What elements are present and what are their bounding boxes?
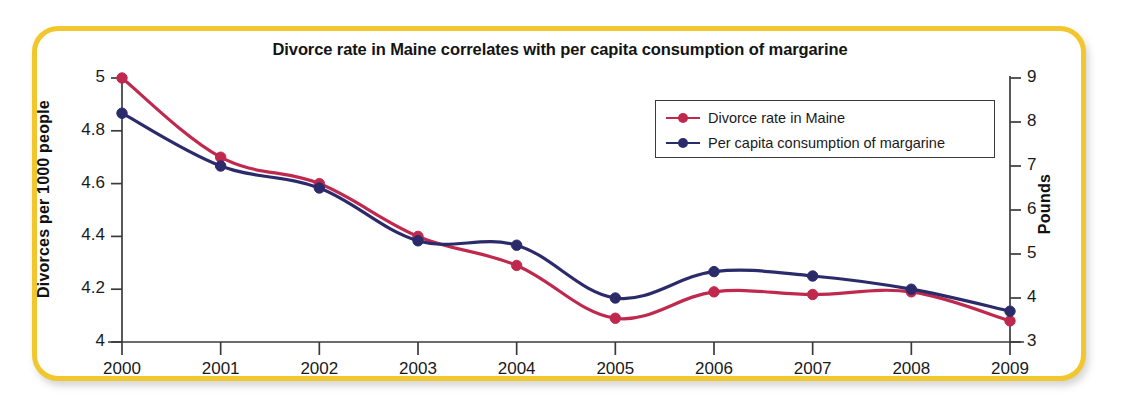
plot-canvas: [0, 0, 1126, 419]
legend-label-divorce-rate: Divorce rate in Maine: [708, 110, 845, 126]
data-point: [610, 313, 620, 323]
data-point: [215, 161, 225, 171]
chart-figure: Divorce rate in Maine correlates with pe…: [0, 0, 1126, 419]
y-axis-right-tick-9: 9: [1027, 67, 1067, 87]
y-axis-right-tick-3: 3: [1027, 331, 1067, 351]
x-axis-tick-2003: 2003: [383, 359, 453, 379]
x-axis-tick-2001: 2001: [186, 359, 256, 379]
chart-page: Divorce rate in Maine correlates with pe…: [0, 0, 1126, 419]
y-axis-left-tick-4: 4: [59, 331, 105, 351]
data-point: [117, 73, 127, 83]
data-point: [413, 236, 423, 246]
data-point: [511, 240, 521, 250]
y-axis-left-tick-5: 5: [59, 67, 105, 87]
data-point: [807, 271, 817, 281]
data-point: [314, 183, 324, 193]
data-point: [511, 260, 521, 270]
y-axis-left-tick-4.2: 4.2: [59, 278, 105, 298]
data-point: [117, 108, 127, 118]
y-axis-right-tick-5: 5: [1027, 243, 1067, 263]
y-axis-left-tick-4.8: 4.8: [59, 120, 105, 140]
x-axis-tick-2000: 2000: [87, 359, 157, 379]
x-axis-tick-2008: 2008: [876, 359, 946, 379]
legend-marker-icon-red: [666, 111, 700, 125]
data-point: [807, 289, 817, 299]
legend-item-margarine: Per capita consumption of margarine: [666, 130, 994, 155]
data-point: [709, 287, 719, 297]
chart-legend: Divorce rate in Maine Per capita consump…: [655, 100, 995, 158]
y-axis-right-tick-8: 8: [1027, 111, 1067, 131]
y-axis-right-tick-7: 7: [1027, 155, 1067, 175]
data-point: [1005, 306, 1015, 316]
x-axis-tick-2002: 2002: [284, 359, 354, 379]
y-axis-left-tick-4.4: 4.4: [59, 225, 105, 245]
x-axis-tick-2007: 2007: [778, 359, 848, 379]
legend-item-divorce-rate: Divorce rate in Maine: [666, 105, 994, 130]
x-axis-tick-2004: 2004: [482, 359, 552, 379]
x-axis-tick-2009: 2009: [975, 359, 1045, 379]
data-point: [610, 293, 620, 303]
y-axis-right-tick-4: 4: [1027, 287, 1067, 307]
y-axis-left-tick-4.6: 4.6: [59, 173, 105, 193]
data-point: [1005, 316, 1015, 326]
x-axis-tick-2006: 2006: [679, 359, 749, 379]
data-point: [709, 266, 719, 276]
legend-label-margarine: Per capita consumption of margarine: [708, 135, 945, 151]
x-axis-tick-2005: 2005: [580, 359, 650, 379]
data-point: [906, 284, 916, 294]
y-axis-right-tick-6: 6: [1027, 199, 1067, 219]
legend-marker-icon-navy: [666, 136, 700, 150]
